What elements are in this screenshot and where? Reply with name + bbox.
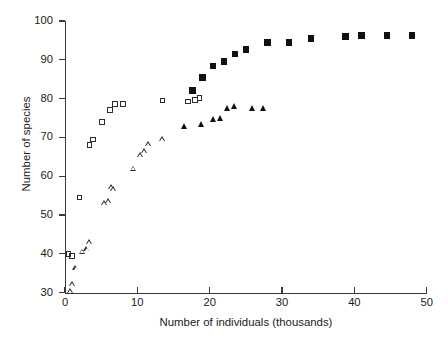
y-tick <box>59 20 65 21</box>
data-point-open-square <box>69 253 75 259</box>
y-tick-label: 70 <box>13 131 53 142</box>
data-point-filled-square <box>232 51 238 58</box>
data-point-open-triangle <box>130 166 136 171</box>
data-point-open-triangle <box>111 186 117 191</box>
data-point-open-square <box>87 142 93 148</box>
y-axis-title: Number of species <box>20 64 32 224</box>
data-point-open-triangle <box>137 152 143 157</box>
y-tick <box>59 137 65 138</box>
y-tick-label: 60 <box>13 170 53 181</box>
data-point-filled-square <box>384 32 390 39</box>
y-tick <box>59 59 65 60</box>
data-point-open-triangle <box>106 198 112 203</box>
data-point-filled-square <box>199 74 205 81</box>
data-point-open-triangle <box>145 141 151 146</box>
data-point-filled-square <box>409 32 415 39</box>
data-point-open-square <box>99 119 105 125</box>
y-tick-label: 80 <box>13 93 53 104</box>
x-tick <box>354 287 355 293</box>
y-tick <box>59 214 65 215</box>
y-tick-label: 50 <box>13 209 53 220</box>
data-point-filled-square <box>286 39 292 46</box>
data-point-filled-square <box>243 46 249 53</box>
data-point-open-square <box>120 101 126 107</box>
data-point-open-square <box>90 137 96 143</box>
data-point-open-triangle <box>73 265 79 270</box>
data-point-filled-square <box>342 33 348 40</box>
x-tick-label: 0 <box>45 297 85 308</box>
x-axis-line <box>65 293 427 294</box>
data-point-filled-triangle <box>181 123 187 129</box>
x-tick-label: 40 <box>334 297 374 308</box>
data-point-open-square <box>197 95 203 101</box>
x-tick <box>426 287 427 293</box>
data-point-open-square <box>185 99 191 105</box>
y-tick <box>59 253 65 254</box>
scatter-plot-figure: 3040506070809010001020304050 Number of s… <box>0 0 448 345</box>
plot-area: 3040506070809010001020304050 Number of s… <box>0 0 448 345</box>
data-point-filled-triangle <box>224 105 230 111</box>
x-tick-label: 10 <box>117 297 157 308</box>
x-tick-label: 50 <box>407 297 447 308</box>
data-point-open-square <box>160 98 166 104</box>
data-point-open-triangle <box>159 136 165 141</box>
data-point-filled-triangle <box>249 105 255 111</box>
x-tick <box>137 287 138 293</box>
data-point-open-triangle <box>142 148 148 153</box>
data-point-open-triangle <box>69 281 75 286</box>
x-tick <box>281 287 282 293</box>
data-point-open-triangle <box>87 239 93 244</box>
data-point-filled-square <box>221 58 227 65</box>
data-point-filled-square <box>308 35 314 42</box>
x-tick-label: 20 <box>190 297 230 308</box>
data-point-open-square <box>107 107 113 113</box>
x-axis-title: Number of individuals (thousands) <box>65 316 427 328</box>
data-point-open-triangle <box>84 246 90 251</box>
y-tick-label: 90 <box>13 54 53 65</box>
x-tick-label: 30 <box>262 297 302 308</box>
data-point-filled-square <box>189 87 195 94</box>
y-tick-label: 100 <box>13 15 53 26</box>
data-point-open-square <box>112 101 118 107</box>
y-tick-label: 40 <box>13 248 53 259</box>
y-tick-label: 30 <box>13 287 53 298</box>
data-point-filled-square <box>264 39 270 46</box>
y-tick <box>59 176 65 177</box>
x-tick <box>64 287 65 293</box>
data-point-open-square <box>77 195 83 201</box>
data-point-filled-square <box>358 32 364 39</box>
x-tick <box>209 287 210 293</box>
data-point-filled-triangle <box>210 116 216 122</box>
data-point-filled-triangle <box>260 105 266 111</box>
data-point-filled-triangle <box>231 103 237 109</box>
data-point-filled-triangle <box>217 115 223 121</box>
data-point-filled-triangle <box>198 121 204 127</box>
data-point-filled-square <box>210 63 216 70</box>
y-tick <box>59 98 65 99</box>
data-point-open-triangle <box>67 288 73 293</box>
